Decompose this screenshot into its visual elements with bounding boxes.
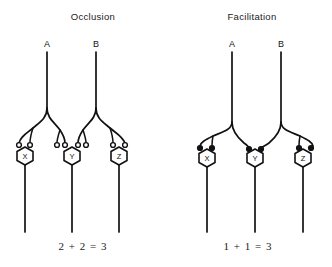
- neuron-label-z-right: Z: [301, 154, 306, 163]
- synaptic-bouton-open: [123, 143, 128, 148]
- equation-occlusion: 2 + 2 = 3: [59, 240, 108, 252]
- axon-label-a-right: A: [229, 39, 235, 49]
- panel-title-occlusion: Occlusion: [71, 11, 115, 22]
- synaptic-bouton-open: [17, 143, 22, 148]
- neuron-label-y-left: Y: [69, 152, 74, 161]
- neuron-label-x-left: X: [22, 152, 27, 161]
- synaptic-bouton-open: [63, 143, 68, 148]
- axon-label-b-left: B: [93, 39, 99, 49]
- synaptic-bouton-open: [55, 143, 60, 148]
- neuron-label-x-right: X: [204, 154, 209, 163]
- synaptic-bouton-open: [111, 143, 116, 148]
- neuron-occlusion-facilitation-diagram: Occlusion A B X: [0, 0, 332, 267]
- synaptic-bouton-filled: [210, 146, 215, 151]
- panel-title-facilitation: Facilitation: [227, 11, 276, 22]
- synaptic-bouton-open: [28, 143, 33, 148]
- synaptic-bouton-open: [84, 143, 89, 148]
- synaptic-bouton-open: [76, 143, 81, 148]
- axon-label-a-left: A: [44, 39, 50, 49]
- neuron-label-z-left: Z: [117, 152, 122, 161]
- synaptic-bouton-filled: [198, 146, 203, 151]
- neuron-label-y-right: Y: [252, 154, 257, 163]
- synaptic-bouton-filled: [309, 146, 314, 151]
- axon-label-b-right: B: [278, 39, 284, 49]
- equation-facilitation: 1 + 1 = 3: [224, 240, 273, 252]
